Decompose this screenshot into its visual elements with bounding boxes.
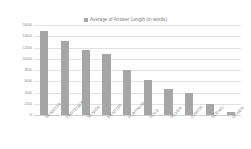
y-axis-tick-label: 1200 (12, 45, 32, 49)
y-axis: 16001400120010008006004002000 (12, 25, 32, 115)
legend-label: Average of Answer Length (in words) (90, 17, 167, 23)
y-axis-tick-label: 1600 (12, 23, 32, 27)
bar (61, 41, 69, 115)
bar (144, 80, 152, 115)
bar-chart: Average of Answer Length (in words) 1600… (0, 0, 251, 149)
bar (102, 54, 110, 115)
bar (164, 89, 172, 115)
legend-swatch-icon (84, 18, 88, 22)
bar (123, 70, 131, 115)
y-axis-tick-label: 0 (12, 113, 32, 117)
y-axis-tick-label: 400 (12, 90, 32, 94)
bar (40, 31, 48, 115)
y-axis-tick-label: 200 (12, 102, 32, 106)
y-axis-tick-label: 800 (12, 68, 32, 72)
y-axis-tick-label: 600 (12, 79, 32, 83)
bar-series (34, 25, 241, 115)
x-axis: SENATORPARTENERSENIORMENTORPLATINUMGOLDS… (34, 116, 241, 149)
y-axis-tick-label: 1400 (12, 34, 32, 38)
y-axis-tick-label: 1000 (12, 57, 32, 61)
